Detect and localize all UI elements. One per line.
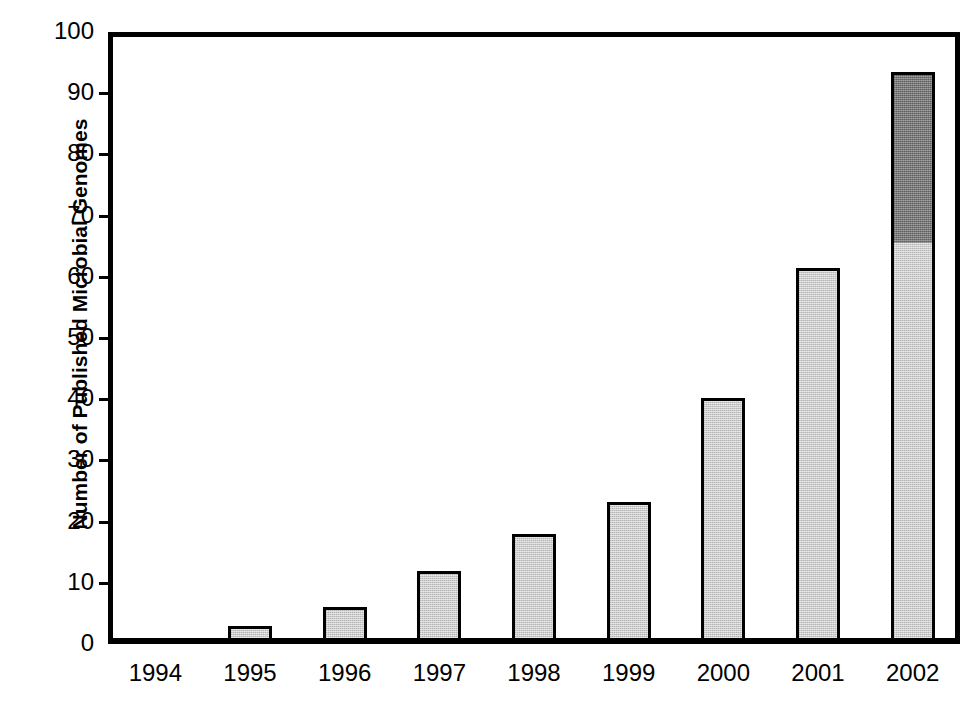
y-tick-label: 80 xyxy=(32,141,94,165)
y-tick-label: 0 xyxy=(32,631,94,655)
y-tick-label: 40 xyxy=(32,386,94,410)
bar-2001[interactable] xyxy=(796,268,840,638)
bar-segment-published[interactable] xyxy=(512,534,556,638)
x-tick-label-2001: 2001 xyxy=(768,658,868,688)
y-tick-mark xyxy=(99,582,108,585)
x-axis-tick-labels: 199419951996199719981999200020012002 xyxy=(108,658,960,698)
y-tick-label: 70 xyxy=(32,203,94,227)
bar-1995[interactable] xyxy=(228,626,272,638)
x-tick-label-1999: 1999 xyxy=(579,658,679,688)
y-tick-label: 10 xyxy=(32,570,94,594)
y-tick-mark xyxy=(99,337,108,340)
y-tick-mark xyxy=(99,276,108,279)
bar-segment-published[interactable] xyxy=(228,626,272,638)
bar-segment-published[interactable] xyxy=(323,607,367,638)
bar-1997[interactable] xyxy=(417,571,461,638)
y-tick-mark xyxy=(99,521,108,524)
bar-1998[interactable] xyxy=(512,534,556,638)
bar-series-container xyxy=(113,37,955,638)
y-tick-label: 60 xyxy=(32,264,94,288)
bar-2000[interactable] xyxy=(701,398,745,638)
bar-1999[interactable] xyxy=(607,502,651,638)
y-tick-mark xyxy=(99,398,108,401)
y-tick-label: 90 xyxy=(32,80,94,104)
y-tick-label: 20 xyxy=(32,509,94,533)
bar-segment-projected-additional[interactable] xyxy=(891,72,935,243)
bar-2002[interactable] xyxy=(891,72,935,638)
plot-area xyxy=(108,32,960,644)
x-tick-label-2000: 2000 xyxy=(673,658,773,688)
bar-chart-figure: Number of Published Microbial Genomes 01… xyxy=(0,0,978,701)
bar-segment-published[interactable] xyxy=(417,571,461,638)
bar-segment-published[interactable] xyxy=(891,243,935,638)
bar-segment-published[interactable] xyxy=(701,398,745,638)
bar-1996[interactable] xyxy=(323,607,367,638)
y-axis-tick-labels: 0102030405060708090100 xyxy=(32,0,94,701)
y-tick-mark xyxy=(99,459,108,462)
x-tick-label-1998: 1998 xyxy=(484,658,584,688)
y-tick-label: 100 xyxy=(32,19,94,43)
x-tick-label-2002: 2002 xyxy=(863,658,963,688)
x-tick-label-1996: 1996 xyxy=(295,658,395,688)
x-tick-label-1994: 1994 xyxy=(105,658,205,688)
y-tick-mark xyxy=(99,153,108,156)
bar-segment-published[interactable] xyxy=(796,268,840,638)
y-tick-mark xyxy=(99,92,108,95)
y-tick-label: 30 xyxy=(32,447,94,471)
y-tick-mark xyxy=(99,215,108,218)
y-tick-label: 50 xyxy=(32,325,94,349)
x-tick-label-1995: 1995 xyxy=(200,658,300,688)
bar-segment-published[interactable] xyxy=(607,502,651,638)
x-tick-label-1997: 1997 xyxy=(389,658,489,688)
